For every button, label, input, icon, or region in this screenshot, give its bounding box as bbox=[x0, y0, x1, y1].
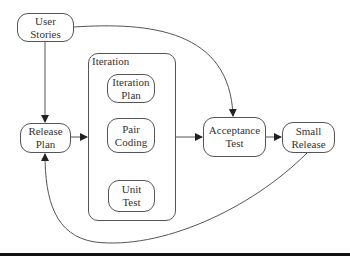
node-label-line: Plan bbox=[121, 89, 141, 102]
node-label-line: Pair bbox=[122, 123, 140, 136]
node-pair-coding[interactable]: Pair Coding bbox=[107, 118, 155, 153]
node-label-line: Acceptance bbox=[209, 124, 260, 137]
node-label-line: Stories bbox=[30, 28, 61, 41]
node-label-line: Coding bbox=[115, 136, 147, 149]
node-label-line: User bbox=[35, 15, 56, 28]
node-label-line: Plan bbox=[36, 138, 56, 151]
node-acceptance-test[interactable]: Acceptance Test bbox=[203, 117, 266, 157]
node-iteration-plan[interactable]: Iteration Plan bbox=[107, 74, 155, 103]
node-user-stories[interactable]: User Stories bbox=[17, 13, 74, 42]
node-label-line: Small bbox=[296, 125, 322, 138]
node-label-line: Test bbox=[225, 137, 243, 150]
node-small-release[interactable]: Small Release bbox=[282, 122, 335, 153]
node-release-plan[interactable]: Release Plan bbox=[20, 123, 71, 153]
node-label-line: Unit bbox=[122, 183, 142, 196]
bottom-rule bbox=[0, 253, 350, 256]
node-label-line: Test bbox=[122, 196, 140, 209]
node-label-line: Release bbox=[28, 125, 62, 138]
edge-smallrelease-releaseplan bbox=[45, 153, 307, 243]
iteration-label: Iteration bbox=[92, 55, 129, 67]
node-unit-test[interactable]: Unit Test bbox=[108, 180, 155, 212]
node-label-line: Release bbox=[291, 138, 325, 151]
node-label-line: Iteration bbox=[112, 76, 149, 89]
